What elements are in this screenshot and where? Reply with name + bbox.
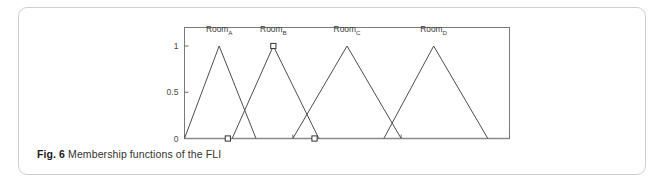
x-tick-label: 5 bbox=[290, 144, 295, 147]
figure-caption-text: Membership functions of the FLI bbox=[68, 148, 221, 160]
x-tick-label: 10 bbox=[396, 144, 406, 147]
series-label-room-d: RoomD bbox=[420, 24, 447, 35]
plot-frame-box bbox=[185, 28, 510, 139]
x-tick-label: 0 bbox=[182, 144, 187, 147]
square-marker bbox=[312, 136, 317, 141]
series-label-room-c: RoomC bbox=[334, 24, 361, 35]
series-label-room-a: RoomA bbox=[206, 24, 233, 35]
y-tick-label: 0.5 bbox=[167, 87, 179, 97]
figure-card: 00.51 051015 RoomARoomBRoomCRoomD Fig. 6… bbox=[18, 7, 646, 175]
square-marker bbox=[271, 43, 276, 48]
plot-svg: 00.51 051015 RoomARoomBRoomCRoomD bbox=[166, 21, 511, 146]
figure-caption-label: Fig. 6 bbox=[37, 148, 65, 160]
y-tick-label: 0 bbox=[174, 134, 179, 144]
membership-function-plot: 00.51 051015 RoomARoomBRoomCRoomD bbox=[166, 21, 511, 146]
figure-caption: Fig. 6 Membership functions of the FLI bbox=[37, 148, 221, 160]
square-marker bbox=[225, 136, 230, 141]
y-tick-label: 1 bbox=[174, 41, 179, 51]
series-label-room-b: RoomB bbox=[260, 24, 286, 35]
x-tick-label: 15 bbox=[505, 144, 511, 147]
